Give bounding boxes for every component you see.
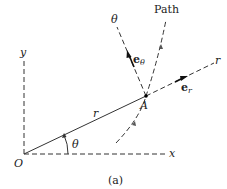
point-a-label: A (140, 100, 148, 111)
figure-caption: (a) (108, 175, 123, 186)
diagram-canvas (0, 0, 227, 189)
radius-line (24, 96, 146, 154)
e-r-base: e (181, 81, 188, 94)
angle-arc (64, 135, 68, 154)
x-axis-label: x (169, 148, 175, 159)
e-r-subscript: r (188, 86, 192, 95)
r-axis-label: r (215, 55, 220, 66)
path-arrowhead-upper-icon (159, 44, 163, 49)
theta-axis-label: θ (111, 14, 118, 25)
y-axis-label: y (20, 47, 26, 58)
path-label: Path (154, 4, 179, 15)
polar-coordinates-diagram: Path θ r y x O A r θ eθ er (a) (0, 0, 227, 189)
origin-label: O (14, 158, 23, 169)
point-a-dot (144, 94, 148, 98)
radius-label: r (93, 108, 98, 119)
angle-label: θ (72, 139, 79, 150)
e-theta-label: eθ (133, 54, 145, 67)
e-r-label: er (181, 82, 192, 95)
path-curve (116, 20, 166, 143)
e-theta-arrowhead-icon (127, 50, 132, 58)
e-theta-base: e (133, 53, 140, 66)
e-theta-subscript: θ (140, 58, 145, 67)
